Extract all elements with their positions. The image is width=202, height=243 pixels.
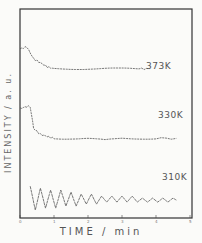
- label-373k: 373K: [146, 61, 171, 71]
- x-tick-3: 3: [121, 219, 124, 224]
- y-axis-label: INTENSITY / a. u.: [4, 63, 13, 183]
- x-tick-4: 4: [155, 219, 158, 224]
- x-tick-1: 1: [53, 219, 56, 224]
- x-tick-2: 2: [87, 219, 90, 224]
- trace-373k: [20, 47, 149, 70]
- label-330k: 330K: [158, 110, 183, 120]
- trace-310k: [30, 186, 176, 210]
- x-tick-0: 0: [19, 219, 22, 224]
- trace-330k: [20, 106, 176, 140]
- x-tick-5: 5: [189, 219, 192, 224]
- x-axis-label: TIME / min: [0, 226, 202, 237]
- plot-area: [0, 0, 202, 243]
- label-310k: 310K: [162, 172, 187, 182]
- traces: [20, 47, 176, 210]
